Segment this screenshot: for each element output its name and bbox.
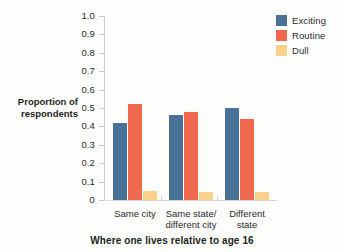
x-axis-title: Where one lives relative to age 16 <box>0 235 344 247</box>
x-axis-group-separator <box>161 196 162 201</box>
y-axis-tick-label: 0.8 <box>81 48 95 58</box>
plot-area <box>105 16 275 200</box>
y-axis-tick-label: 1.0 <box>81 11 95 21</box>
x-axis-tick-label: Different state <box>209 208 285 230</box>
y-axis-tick-label: 0.5 <box>81 103 95 113</box>
bar-exciting <box>113 123 127 200</box>
y-axis-tick-label: 0.9 <box>81 29 95 39</box>
y-axis-title: Proportion of respondents <box>6 96 78 119</box>
y-axis-tick-label: 0 <box>90 195 95 205</box>
legend-label-dull: Dull <box>292 45 309 56</box>
bar-exciting <box>169 115 183 200</box>
y-axis-tick <box>99 200 104 201</box>
y-axis-tick-label: 0.2 <box>81 158 95 168</box>
bar-exciting <box>225 108 239 200</box>
y-axis-tick-label: 0.4 <box>81 121 95 131</box>
legend-item-exciting: Exciting <box>276 15 326 26</box>
y-axis-title-line1: Proportion of <box>6 96 78 108</box>
bar-dull <box>199 192 213 200</box>
legend-item-routine: Routine <box>276 30 326 41</box>
chart-legend: Exciting Routine Dull <box>276 15 326 56</box>
legend-label-routine: Routine <box>292 30 325 41</box>
bar-routine <box>128 104 142 200</box>
bar-group <box>113 16 157 200</box>
y-axis-title-line2: respondents <box>6 108 78 120</box>
x-axis-group-separator <box>217 196 218 201</box>
bar-group <box>169 16 213 200</box>
bar-dull <box>143 191 157 200</box>
bar-group <box>225 16 269 200</box>
x-axis-baseline <box>105 200 277 201</box>
bar-dull <box>255 192 269 200</box>
y-axis-tick-label: 0.6 <box>81 85 95 95</box>
y-axis-tick-label: 0.7 <box>81 66 95 76</box>
legend-item-dull: Dull <box>276 45 326 56</box>
bar-chart-figure: Exciting Routine Dull Proportion of resp… <box>0 0 344 252</box>
y-axis-tick-label: 0.3 <box>81 140 95 150</box>
legend-swatch-icon-exciting <box>276 15 287 26</box>
legend-swatch-icon-dull <box>276 45 287 56</box>
y-axis-tick-label: 0.1 <box>81 177 95 187</box>
bar-routine <box>240 119 254 200</box>
legend-label-exciting: Exciting <box>292 15 326 26</box>
legend-swatch-icon-routine <box>276 30 287 41</box>
bar-routine <box>184 112 198 200</box>
